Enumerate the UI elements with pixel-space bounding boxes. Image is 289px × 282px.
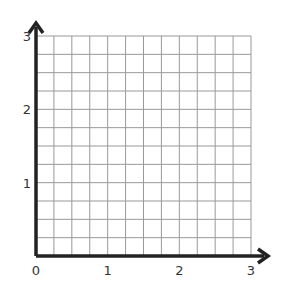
grid-lines: [36, 36, 251, 256]
x-tick-label: 2: [175, 263, 183, 278]
y-tick-label: 1: [23, 176, 31, 191]
x-tick-label: 1: [104, 263, 112, 278]
x-tick-label: 3: [247, 263, 255, 278]
y-tick-label: 3: [23, 29, 31, 44]
y-tick-labels: 123: [23, 29, 31, 191]
coordinate-grid-chart: 0123 123: [0, 0, 289, 282]
x-tick-label: 0: [32, 263, 40, 278]
x-tick-labels: 0123: [32, 263, 255, 278]
y-tick-label: 2: [23, 102, 31, 117]
axes: [29, 23, 268, 263]
